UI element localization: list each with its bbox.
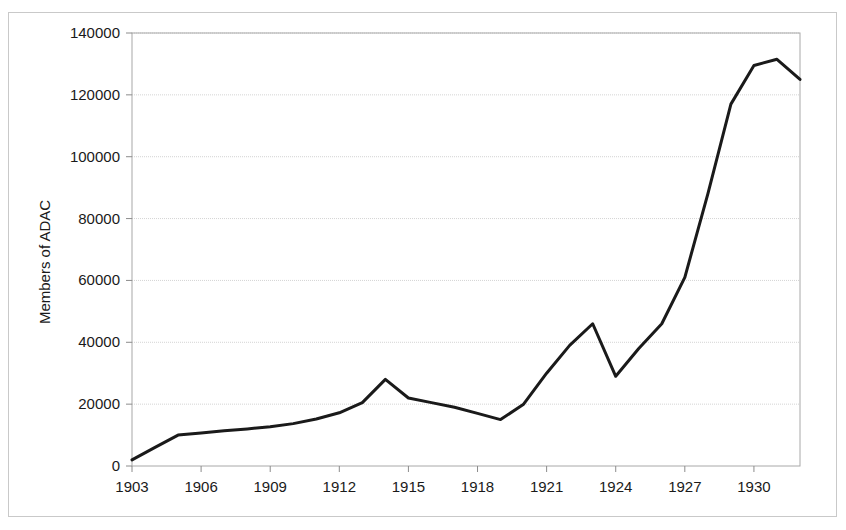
y-axis-tick-labels: 020000400006000080000100000120000140000 bbox=[70, 24, 120, 474]
x-tick-label: 1909 bbox=[254, 478, 287, 495]
y-tick-label: 60000 bbox=[78, 271, 120, 288]
x-tick-label: 1915 bbox=[392, 478, 425, 495]
x-axis-ticks bbox=[132, 466, 754, 472]
plot-area-border bbox=[132, 33, 800, 466]
data-series-line bbox=[132, 59, 800, 460]
x-tick-label: 1903 bbox=[115, 478, 148, 495]
x-axis-tick-labels: 1903190619091912191519181921192419271930 bbox=[115, 478, 770, 495]
y-tick-label: 100000 bbox=[70, 148, 120, 165]
x-tick-label: 1927 bbox=[668, 478, 701, 495]
x-tick-label: 1912 bbox=[323, 478, 356, 495]
x-tick-label: 1921 bbox=[530, 478, 563, 495]
y-tick-label: 0 bbox=[112, 457, 120, 474]
x-tick-label: 1918 bbox=[461, 478, 494, 495]
y-tick-label: 40000 bbox=[78, 333, 120, 350]
y-axis-title: Members of ADAC bbox=[36, 200, 53, 324]
y-tick-label: 140000 bbox=[70, 24, 120, 41]
x-tick-label: 1906 bbox=[184, 478, 217, 495]
y-tick-label: 20000 bbox=[78, 395, 120, 412]
y-tick-label: 120000 bbox=[70, 86, 120, 103]
y-tick-label: 80000 bbox=[78, 210, 120, 227]
x-tick-label: 1930 bbox=[737, 478, 770, 495]
y-axis-ticks bbox=[126, 33, 132, 466]
chart-figure: 1903190619091912191519181921192419271930… bbox=[0, 0, 846, 530]
series-line bbox=[132, 59, 800, 460]
x-tick-label: 1924 bbox=[599, 478, 632, 495]
line-chart: 1903190619091912191519181921192419271930… bbox=[0, 0, 846, 530]
